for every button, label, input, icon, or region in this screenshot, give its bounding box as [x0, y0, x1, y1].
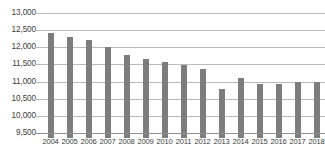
y-axis-tick-label: 11,000	[0, 78, 36, 86]
x-axis-tick-label: 2013	[214, 137, 230, 146]
y-axis: 13,00012,50012,00011,50011,00010,50010,0…	[0, 0, 40, 157]
x-axis-tick-label: 2010	[157, 137, 173, 146]
x-axis-tick-label: 2009	[138, 137, 154, 146]
y-axis-tick-label: 9,500	[0, 129, 36, 137]
x-axis-tick-label: 2005	[62, 137, 78, 146]
bar	[162, 62, 168, 133]
x-axis-tick-label: 2012	[195, 137, 211, 146]
x-axis-tick-label: 2014	[233, 137, 249, 146]
x-axis-tick-label: 2004	[43, 137, 59, 146]
y-axis-tick-label: 12,500	[0, 26, 36, 34]
x-axis-tick-label: 2007	[100, 137, 116, 146]
bar-series	[40, 0, 325, 157]
x-axis: 2004200520062007200820092010201120122013…	[40, 137, 325, 151]
bar	[86, 40, 92, 133]
bar	[143, 59, 149, 133]
y-axis-tick-label: 12,000	[0, 43, 36, 51]
bar	[276, 84, 282, 133]
bar	[200, 69, 206, 133]
bar	[124, 55, 130, 133]
y-axis-tick-label: 11,500	[0, 60, 36, 68]
y-axis-tick-label: 10,000	[0, 112, 36, 120]
bar	[295, 82, 301, 133]
y-axis-tick-label: 13,000	[0, 9, 36, 17]
y-axis-tick-label: 10,500	[0, 95, 36, 103]
bar-chart: 13,00012,50012,00011,50011,00010,50010,0…	[0, 0, 325, 157]
bar	[238, 78, 244, 133]
bar	[67, 37, 73, 133]
x-axis-tick-label: 2015	[252, 137, 268, 146]
x-axis-tick-label: 2017	[290, 137, 306, 146]
bar	[105, 47, 111, 133]
bar	[48, 33, 54, 133]
bar	[219, 89, 225, 133]
plot-area: 2004200520062007200820092010201120122013…	[40, 0, 325, 157]
x-axis-tick-label: 2018	[309, 137, 325, 146]
bar	[181, 65, 187, 133]
x-axis-tick-label: 2016	[271, 137, 287, 146]
bar	[314, 82, 320, 133]
bar	[257, 84, 263, 133]
x-axis-tick-label: 2006	[81, 137, 97, 146]
x-axis-tick-label: 2011	[176, 137, 191, 146]
x-axis-tick-label: 2008	[119, 137, 135, 146]
